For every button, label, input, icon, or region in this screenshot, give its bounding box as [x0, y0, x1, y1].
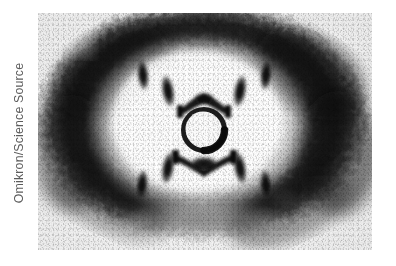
- page-root: Omikron/Science Source: [0, 0, 396, 266]
- photo-credit-label: Omikron/Science Source: [13, 63, 25, 203]
- photo-credit: Omikron/Science Source: [0, 0, 38, 266]
- diffraction-photograph: [38, 13, 372, 250]
- diffraction-pattern-image: [38, 13, 372, 250]
